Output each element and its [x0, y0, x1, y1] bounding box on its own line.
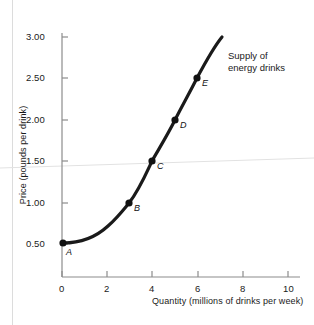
supply-curve-path [63, 37, 222, 243]
point-label-c: C [157, 161, 164, 171]
y-tick-label-2-00: 2.00 [26, 114, 45, 125]
y-tick-label-3-00: 3.00 [26, 31, 45, 42]
y-axis-ticks [62, 37, 68, 244]
supply-curve-annotation-line1: Supply of [228, 50, 285, 62]
data-point-c [148, 157, 155, 164]
x-tick-label-10: 10 [283, 283, 294, 294]
x-tick-label-6: 6 [195, 283, 200, 294]
supply-curve-figure: Price (pounds per drink) 3.00 2.50 2.00 … [0, 0, 314, 325]
point-label-e: E [202, 78, 208, 88]
y-tick-label-2-50: 2.50 [26, 72, 45, 83]
data-point-a [59, 239, 66, 246]
y-tick-label-1-00: 1.00 [26, 197, 45, 208]
supply-curve-annotation-line2: energy drinks [228, 62, 285, 74]
x-tick-label-2: 2 [104, 283, 109, 294]
x-axis-title: Quantity (millions of drinks per week) [152, 296, 303, 306]
x-tick-label-8: 8 [240, 283, 245, 294]
x-tick-label-0: 0 [59, 283, 64, 294]
data-point-b [125, 199, 132, 206]
data-point-markers [59, 74, 200, 246]
supply-curve-annotation: Supply of energy drinks [228, 50, 285, 73]
data-point-e [193, 74, 200, 81]
y-tick-label-1-50: 1.50 [26, 155, 45, 166]
point-label-a: A [66, 247, 72, 257]
x-tick-label-4: 4 [149, 283, 154, 294]
y-tick-label-0-50: 0.50 [26, 238, 45, 249]
data-point-d [171, 116, 178, 123]
x-axis-ticks [62, 271, 288, 277]
point-label-d: D [180, 120, 187, 130]
point-label-b: B [134, 203, 140, 213]
